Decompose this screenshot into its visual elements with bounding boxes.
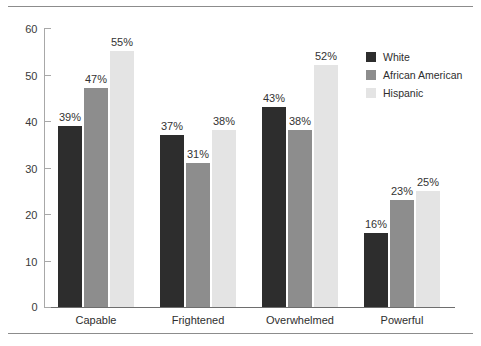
y-tick-label-50: 50 <box>25 68 37 84</box>
x-tick-label-capable: Capable <box>48 313 144 327</box>
top-divider <box>8 6 473 7</box>
legend-swatch-african-american <box>366 70 376 80</box>
bar-label-powerful-african-american: 23% <box>391 185 413 198</box>
bar-powerful-white: 16% <box>364 233 388 307</box>
y-tick-10: 10 <box>44 261 51 262</box>
bar-capable-white: 39% <box>58 126 82 307</box>
y-tick-50: 50 <box>44 75 51 76</box>
bar-frightened-white: 37% <box>160 135 184 307</box>
y-tick-label-60: 60 <box>25 21 37 37</box>
bar-frightened-african-american: 31% <box>186 163 210 307</box>
bar-capable-hispanic: 55% <box>110 51 134 307</box>
legend-label-african-american: African American <box>383 69 462 82</box>
legend-item-white: White <box>366 49 476 65</box>
bar-overwhelmed-hispanic: 52% <box>314 65 338 307</box>
legend-label-hispanic: Hispanic <box>383 87 423 100</box>
bar-label-capable-african-american: 47% <box>85 73 107 86</box>
bar-label-overwhelmed-white: 43% <box>263 92 285 105</box>
bar-label-frightened-hispanic: 38% <box>213 115 235 128</box>
bar-label-overwhelmed-african-american: 38% <box>289 115 311 128</box>
x-axis-line <box>44 307 455 308</box>
x-tick-label-overwhelmed: Overwhelmed <box>252 313 348 327</box>
bar-label-capable-white: 39% <box>59 111 81 124</box>
bar-powerful-african-american: 23% <box>390 200 414 307</box>
bar-label-capable-hispanic: 55% <box>111 36 133 49</box>
bar-capable-african-american: 47% <box>84 88 108 307</box>
y-tick-60: 60 <box>44 28 51 29</box>
bottom-divider <box>8 333 473 334</box>
y-tick-label-30: 30 <box>25 161 37 177</box>
legend-label-white: White <box>383 51 410 64</box>
bar-label-frightened-african-american: 31% <box>187 148 209 161</box>
bar-label-frightened-white: 37% <box>161 120 183 133</box>
legend: White African American Hispanic <box>366 49 476 103</box>
bar-label-overwhelmed-hispanic: 52% <box>315 50 337 63</box>
y-tick-40: 40 <box>44 121 51 122</box>
chart-page: 60 50 40 30 20 10 0 39% 47% 55% Capable … <box>0 0 481 346</box>
legend-swatch-hispanic <box>366 88 376 98</box>
y-tick-30: 30 <box>44 168 51 169</box>
x-tick-label-frightened: Frightened <box>150 313 246 327</box>
bar-overwhelmed-white: 43% <box>262 107 286 307</box>
y-tick-20: 20 <box>44 214 51 215</box>
legend-item-african-american: African American <box>366 67 476 83</box>
y-tick-label-20: 20 <box>25 207 37 223</box>
bar-label-powerful-white: 16% <box>365 218 387 231</box>
legend-item-hispanic: Hispanic <box>366 85 476 101</box>
x-tick-label-powerful: Powerful <box>354 313 450 327</box>
y-tick-0: 0 <box>44 307 51 308</box>
legend-swatch-white <box>366 52 376 62</box>
y-tick-label-0: 0 <box>31 299 37 315</box>
bar-powerful-hispanic: 25% <box>416 191 440 307</box>
y-tick-label-40: 40 <box>25 114 37 130</box>
bar-frightened-hispanic: 38% <box>212 130 236 307</box>
bar-overwhelmed-african-american: 38% <box>288 130 312 307</box>
y-tick-label-10: 10 <box>25 254 37 270</box>
bar-label-powerful-hispanic: 25% <box>417 176 439 189</box>
